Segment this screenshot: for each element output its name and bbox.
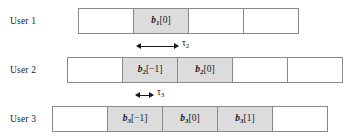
tau-3-arrow: τ3 <box>136 89 153 103</box>
arrow-head-right-icon <box>149 92 154 98</box>
user-label-1: User 1 <box>10 16 36 26</box>
bit-label: b1[0] <box>151 16 170 27</box>
timing-diagram: User 1b1[0]User 2b2[−1]b2[0]User 3b3[−1]… <box>0 0 364 140</box>
tau-2-label: τ2 <box>182 38 189 50</box>
bit-cell-empty <box>243 8 299 34</box>
bit-cell-empty <box>287 57 343 83</box>
tau-2-arrow: τ2 <box>137 40 178 54</box>
timeline-row-1: b1[0] <box>78 8 299 34</box>
bit-cell-empty <box>188 8 244 34</box>
bit-label: b3[0] <box>180 114 199 125</box>
user-label-2: User 2 <box>10 65 36 75</box>
arrow-line <box>137 46 178 47</box>
bit-cell-shaded: b2[0] <box>177 57 233 83</box>
bit-cell-shaded: b3[−1] <box>107 106 163 132</box>
user-label-3: User 3 <box>10 114 36 124</box>
timeline-row-3: b3[−1]b3[0]b3[1] <box>52 106 328 132</box>
timeline-row-2: b2[−1]b2[0] <box>67 57 343 83</box>
arrow-head-right-icon <box>174 43 179 49</box>
bit-label: b2[−1] <box>138 65 163 76</box>
arrow-head-left-icon <box>136 43 141 49</box>
bit-cell-empty <box>232 57 288 83</box>
tau-3-label: τ3 <box>157 87 164 99</box>
bit-cell-empty <box>272 106 328 132</box>
bit-cell-shaded: b2[−1] <box>122 57 178 83</box>
bit-label: b3[−1] <box>123 114 148 125</box>
bit-cell-shaded: b3[1] <box>217 106 273 132</box>
bit-cell-shaded: b3[0] <box>162 106 218 132</box>
bit-label: b2[0] <box>195 65 214 76</box>
bit-label: b3[1] <box>235 114 254 125</box>
bit-cell-shaded: b1[0] <box>133 8 189 34</box>
arrow-head-left-icon <box>135 92 140 98</box>
bit-cell-empty <box>52 106 108 132</box>
bit-cell-empty <box>67 57 123 83</box>
bit-cell-empty <box>78 8 134 34</box>
